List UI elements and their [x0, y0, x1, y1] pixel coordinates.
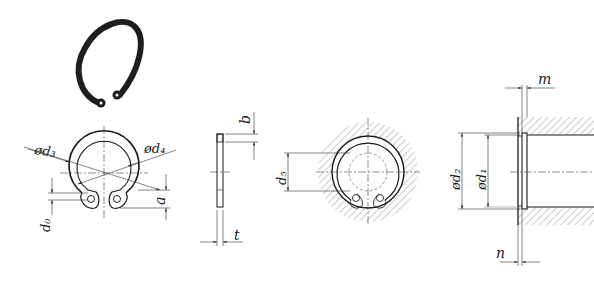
- label-a: a: [152, 197, 168, 205]
- label-d5: d₅: [274, 171, 289, 185]
- label-d3: ød₃: [33, 142, 57, 160]
- label-b: b: [237, 115, 253, 124]
- label-t: t: [234, 227, 240, 243]
- isometric-ring-view: [79, 22, 141, 107]
- side-view: b t: [200, 112, 258, 246]
- label-m: m: [538, 71, 551, 87]
- front-view: ød₃ ød₄ d₀ a: [24, 126, 176, 232]
- groove-section-view: m ød₂ ød₁ n: [448, 71, 594, 266]
- installed-view: d₅: [274, 118, 420, 226]
- technical-drawing: ød₃ ød₄ d₀ a b t: [0, 0, 594, 283]
- label-d2: ød₂: [448, 169, 463, 191]
- ring-3d-icon: [79, 22, 141, 103]
- label-d0: d₀: [38, 218, 53, 232]
- label-n: n: [496, 245, 505, 261]
- label-d4: ød₄: [143, 141, 165, 156]
- label-d1: ød₁: [474, 169, 489, 191]
